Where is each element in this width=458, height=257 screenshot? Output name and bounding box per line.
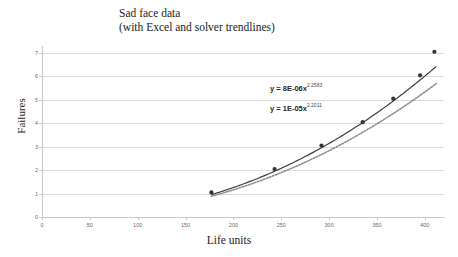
x-tick-mark	[233, 217, 234, 220]
excel-equation-exponent: 2.2583	[307, 82, 322, 88]
data-point-marker	[432, 50, 436, 54]
data-point-marker	[209, 190, 213, 194]
data-point-marker	[319, 143, 323, 147]
y-tick-mark	[39, 170, 42, 171]
data-point-markers	[209, 50, 436, 195]
x-tick-mark	[377, 217, 378, 220]
trendline-group	[211, 66, 436, 196]
chart-container: Sad face data (with Excel and solver tre…	[0, 0, 458, 257]
trendline-solver	[211, 84, 436, 197]
y-tick-mark	[39, 100, 42, 101]
x-tick-mark	[186, 217, 187, 220]
y-tick-mark	[39, 53, 42, 54]
x-tick-mark	[42, 217, 43, 220]
excel-equation-label: y = 8E-06x2.2583	[270, 82, 322, 93]
y-tick-mark	[39, 147, 42, 148]
y-tick-mark	[39, 76, 42, 77]
series-layer	[0, 0, 458, 257]
x-tick-mark	[329, 217, 330, 220]
x-tick-mark	[90, 217, 91, 220]
data-point-marker	[361, 120, 365, 124]
data-point-marker	[272, 167, 276, 171]
solver-equation-exponent: 2.2011	[307, 102, 322, 108]
solver-equation-text: y = 1E-05x	[270, 104, 307, 113]
excel-equation-text: y = 8E-06x	[270, 84, 307, 93]
y-tick-mark	[39, 194, 42, 195]
y-tick-mark	[39, 123, 42, 124]
x-tick-mark	[138, 217, 139, 220]
data-point-marker	[391, 97, 395, 101]
solver-equation-label: y = 1E-05x2.2011	[270, 102, 322, 113]
data-point-marker	[418, 73, 422, 77]
trendline-excel	[211, 66, 436, 194]
x-tick-mark	[281, 217, 282, 220]
x-tick-mark	[425, 217, 426, 220]
